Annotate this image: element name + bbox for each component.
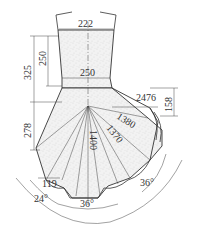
dim-angle-bottom: 36° xyxy=(80,198,94,209)
dim-neck-width: 250 xyxy=(80,67,95,78)
dim-angle-left: 24° xyxy=(34,193,48,204)
dim-upper-height: 325 xyxy=(22,65,33,80)
dim-branch-length: 2476 xyxy=(136,92,156,103)
dim-branch-offset: 158 xyxy=(163,97,174,112)
dim-neck-height: 250 xyxy=(37,51,48,66)
dim-top-width: 222 xyxy=(78,18,93,29)
dim-base-offset: 119 xyxy=(42,178,57,189)
dim-radius-1400: 1400 xyxy=(88,130,99,150)
dim-angle-right: 36° xyxy=(140,177,154,188)
upper-body xyxy=(58,30,114,88)
dim-lower-height: 278 xyxy=(22,123,33,138)
engineering-diagram: 222 250 325 250 278 2476 158 1380 1370 1… xyxy=(0,0,204,233)
